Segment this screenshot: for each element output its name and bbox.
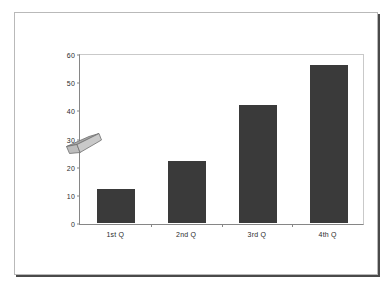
- x-axis-tick-label: 3rd Q: [248, 231, 267, 238]
- y-axis-tick-label: 10: [67, 192, 80, 199]
- plot-area: 0102030405060 1st Q2nd Q3rd Q4th Q: [79, 54, 364, 225]
- y-axis-tick-label: 50: [67, 80, 80, 87]
- y-axis-tick-label: 40: [67, 108, 80, 115]
- x-axis-tick-mark: [292, 224, 293, 227]
- y-axis-tick-label: 20: [67, 164, 80, 171]
- y-axis-tick-label: 60: [67, 52, 80, 59]
- x-axis-tick-label: 4th Q: [319, 231, 337, 238]
- y-axis-tick-label: 0: [71, 221, 80, 228]
- bar-chart: 0102030405060 1st Q2nd Q3rd Q4th Q: [15, 13, 379, 276]
- x-axis-tick-label: 1st Q: [107, 231, 125, 238]
- figure-caption: [16, 283, 376, 291]
- y-axis-tick-label: 30: [67, 136, 80, 143]
- x-axis-category: 3rd Q: [222, 55, 293, 224]
- x-axis-tick-mark: [222, 224, 223, 227]
- x-axis-category: 1st Q: [80, 55, 151, 224]
- x-axis-tick-mark: [151, 224, 152, 227]
- x-axis-category: 2nd Q: [151, 55, 222, 224]
- x-axis-category: 4th Q: [292, 55, 363, 224]
- figure-frame: 0102030405060 1st Q2nd Q3rd Q4th Q: [14, 12, 378, 275]
- x-axis-tick-label: 2nd Q: [176, 231, 196, 238]
